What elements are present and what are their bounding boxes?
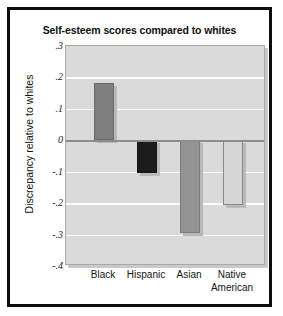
y-tick-label: 0 xyxy=(37,134,63,145)
bar-hispanic[interactable] xyxy=(137,140,157,173)
bar-black[interactable] xyxy=(94,83,114,140)
y-tick-label: -.4 xyxy=(37,260,63,271)
gridline xyxy=(66,235,264,237)
y-tick-label: -.1 xyxy=(37,165,63,176)
x-tick-label-hispanic: Hispanic xyxy=(127,269,165,282)
x-tick-label-asian: Asian xyxy=(176,269,201,282)
y-tick-label: .3 xyxy=(37,40,63,51)
x-tick-line: Hispanic xyxy=(127,269,165,282)
x-tick-line: Asian xyxy=(176,269,201,282)
x-tick-line: American xyxy=(211,282,253,295)
y-tick-label: .1 xyxy=(37,102,63,113)
y-tick-label: .2 xyxy=(37,71,63,82)
bar-asian[interactable] xyxy=(180,140,200,233)
bar-native-american[interactable] xyxy=(223,140,243,204)
chart-title: Self-esteem scores compared to whites xyxy=(10,24,269,36)
figure-frame: Self-esteem scores compared to whites Di… xyxy=(7,7,272,307)
x-tick-label-native-american: Native American xyxy=(211,269,253,294)
x-tick-line: Black xyxy=(91,269,115,282)
zero-line xyxy=(66,140,264,141)
y-axis-ticks: .3 .2 .1 0 -.1 -.2 -.3 -.4 xyxy=(30,45,63,265)
x-tick-line: Native xyxy=(211,269,253,282)
gridline xyxy=(66,77,264,79)
x-axis-ticks: Black Hispanic Asian Native American xyxy=(65,269,265,311)
y-tick-label: -.2 xyxy=(37,197,63,208)
y-tick-label: -.3 xyxy=(37,228,63,239)
plot-area xyxy=(65,45,265,265)
x-tick-label-black: Black xyxy=(91,269,115,282)
